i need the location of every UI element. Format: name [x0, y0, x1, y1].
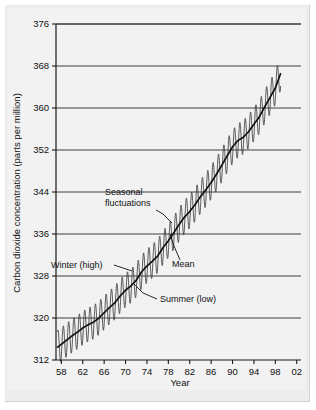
- y-tick-label: 352: [33, 144, 49, 155]
- annotation-leader-seasonal: [156, 210, 172, 223]
- annotation-group: SeasonalfluctuationsWinter (high)MeanSum…: [51, 187, 216, 304]
- y-tick-label: 376: [33, 18, 49, 29]
- x-tick-label: 86: [206, 366, 217, 377]
- y-tick-label: 312: [33, 354, 49, 365]
- x-tick-label: 74: [142, 366, 153, 377]
- y-tick-label: 344: [33, 186, 49, 197]
- keeling-curve-chart: 3123203283363443523603683765862667074788…: [0, 0, 316, 410]
- y-axis-title: Carbon dioxide concentration (parts per …: [11, 93, 22, 293]
- x-axis-title: Year: [170, 377, 189, 388]
- x-tick-label: 82: [184, 366, 195, 377]
- annotation-seasonal: Seasonalfluctuations: [105, 187, 151, 208]
- gridline-group: [56, 24, 301, 318]
- y-tick-label: 368: [33, 60, 49, 71]
- y-tick-label: 328: [33, 270, 49, 281]
- annotation-leader-summer: [134, 284, 157, 299]
- tick-group: [52, 24, 297, 364]
- annotation-leader-winter: [114, 265, 132, 271]
- axis-title-group: Carbon dioxide concentration (parts per …: [11, 93, 190, 388]
- x-tick-label: 62: [77, 366, 88, 377]
- x-tick-label: 66: [99, 366, 110, 377]
- x-tick-label: 94: [249, 366, 260, 377]
- co2-concentration-figure: 3123203283363443523603683765862667074788…: [0, 0, 316, 410]
- annotation-winter: Winter (high): [51, 260, 103, 270]
- annotation-summer: Summer (low): [160, 294, 216, 304]
- x-tick-label: 78: [163, 366, 174, 377]
- x-tick-label: 70: [120, 366, 131, 377]
- x-tick-label: 02: [291, 366, 302, 377]
- x-tick-label: 98: [270, 366, 281, 377]
- annotation-mean: Mean: [172, 259, 195, 269]
- x-tick-label: 58: [56, 366, 67, 377]
- y-tick-label: 336: [33, 228, 49, 239]
- y-tick-label: 360: [33, 102, 49, 113]
- seasonal-fluctuation-curve: [58, 66, 281, 362]
- mean-trend-curve: [58, 74, 281, 347]
- data-series-group: [58, 66, 281, 362]
- y-tick-label: 320: [33, 312, 49, 323]
- x-tick-label: 90: [227, 366, 238, 377]
